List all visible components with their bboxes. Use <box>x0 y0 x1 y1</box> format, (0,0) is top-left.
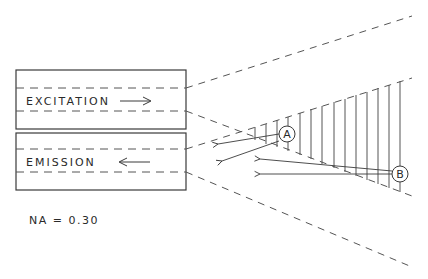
overlap-hatching <box>255 81 400 192</box>
region-b-marker: B <box>392 166 408 182</box>
region-b-rays <box>260 159 392 174</box>
fiber-optic-diagram: EXCITATION EMISSION <box>0 0 428 279</box>
numerical-aperture-label: NA = 0.30 <box>29 214 99 227</box>
arrow-right-icon <box>120 97 151 105</box>
excitation-label: EXCITATION <box>26 95 110 108</box>
region-a-rays <box>218 134 279 161</box>
region-a-marker: A <box>279 126 295 142</box>
emission-label: EMISSION <box>26 156 96 169</box>
region-b-label: B <box>396 168 404 181</box>
excitation-fiber: EXCITATION <box>16 70 186 129</box>
emission-fiber: EMISSION <box>16 133 186 190</box>
region-a-label: A <box>283 128 291 141</box>
arrow-left-icon <box>119 158 150 166</box>
